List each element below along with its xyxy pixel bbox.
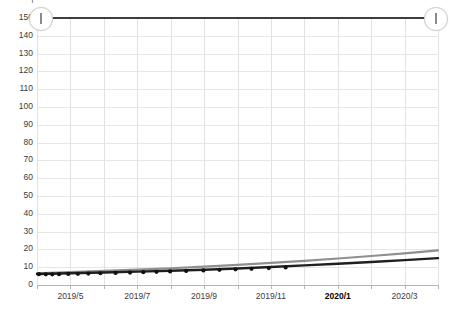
x-axis-tick (204, 285, 205, 289)
y-axis-tick-label: 30 (3, 227, 33, 236)
x-axis-tick (104, 285, 105, 289)
x-axis-tick (338, 285, 339, 289)
y-axis-tick-label: 100 (3, 102, 33, 111)
data-point-marker (128, 270, 132, 274)
y-axis-tick-label: 70 (3, 155, 33, 164)
y-axis-labels: 0102030405060708090100110120130140150 (0, 0, 33, 316)
y-axis-tick-label: 60 (3, 173, 33, 182)
x-axis-tick (37, 285, 38, 289)
data-point-marker (50, 272, 54, 276)
data-point-marker (66, 272, 70, 276)
data-point-marker (249, 267, 253, 271)
toolbar-glyph-3: ┄ (44, 0, 50, 2)
series-layer (37, 18, 438, 285)
handle-grip-icon (435, 13, 437, 24)
data-point-marker (184, 269, 188, 273)
x-axis-tick (238, 285, 239, 289)
data-point-marker (201, 268, 205, 272)
x-axis-tick-label: 2019/9 (174, 291, 234, 301)
x-axis-tick (405, 285, 406, 289)
x-axis-tick-label: 2019/11 (241, 291, 301, 301)
data-point-marker (37, 272, 41, 276)
data-point-marker (267, 266, 271, 270)
data-point-marker (98, 271, 102, 275)
x-axis-tick (271, 285, 272, 289)
data-point-marker (217, 268, 221, 272)
data-point-marker (57, 272, 61, 276)
x-axis-tick (371, 285, 372, 289)
data-point-marker (86, 272, 90, 276)
data-point-marker (76, 272, 80, 276)
y-axis-tick-label: 110 (3, 84, 33, 93)
x-axis-tick-label: 2020/3 (375, 291, 435, 301)
data-point-marker (284, 265, 288, 269)
range-min-handle[interactable] (29, 7, 53, 31)
x-axis-tick-label: 2019/5 (40, 291, 100, 301)
y-axis-tick-label: 20 (3, 244, 33, 253)
data-point-marker (233, 267, 237, 271)
y-axis-tick-label: 40 (3, 209, 33, 218)
y-axis-tick-label: 130 (3, 49, 33, 58)
x-axis-tick-label: 2019/7 (107, 291, 167, 301)
x-axis-tick (171, 285, 172, 289)
data-point-marker (44, 272, 48, 276)
y-axis-tick-label: 80 (3, 138, 33, 147)
data-point-marker (114, 271, 118, 275)
chart-container: ▬ │ ┄ 0102030405060708090100110120130140… (0, 0, 462, 316)
gridline-vertical (438, 18, 439, 285)
x-axis-tick (70, 285, 71, 289)
data-point-marker (141, 270, 145, 274)
y-axis-tick-label: 50 (3, 191, 33, 200)
range-max-handle[interactable] (424, 7, 448, 31)
data-point-marker (168, 269, 172, 273)
x-axis-tick (137, 285, 138, 289)
y-axis-tick-label: 10 (3, 262, 33, 271)
x-axis-tick (438, 285, 439, 289)
y-axis-tick-label: 140 (3, 31, 33, 40)
x-axis-tick-label: 2020/1 (308, 291, 368, 301)
y-axis-tick-label: 120 (3, 66, 33, 75)
handle-grip-icon (40, 13, 42, 24)
y-axis-tick-label: 0 (3, 280, 33, 289)
data-point-marker (154, 270, 158, 274)
y-axis-tick-label: 90 (3, 120, 33, 129)
range-slider-track[interactable] (40, 17, 428, 19)
top-toolbar-sliver: ▬ │ ┄ (0, 0, 462, 5)
series-line (37, 258, 438, 274)
x-axis-tick (304, 285, 305, 289)
